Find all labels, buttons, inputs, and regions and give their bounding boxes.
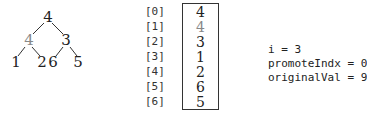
variable-i: i = 3 — [268, 43, 301, 56]
heap-tree: 4431265 — [0, 0, 110, 80]
index-label: [5] — [145, 80, 165, 93]
index-label: [0] — [145, 5, 165, 18]
tree-node: 4 — [43, 8, 53, 26]
tree-node: 3 — [61, 31, 71, 49]
array-cell: 6 — [182, 79, 219, 95]
index-label: [4] — [145, 65, 165, 78]
array-cell: 3 — [182, 34, 219, 50]
tree-node: 1 — [11, 53, 21, 71]
array-cell: 1 — [182, 49, 219, 65]
index-label: [3] — [145, 50, 165, 63]
array-cell: 5 — [182, 94, 219, 110]
variable-original-val: originalVal = 9 — [268, 71, 367, 84]
array-cell: 4 — [182, 4, 219, 20]
tree-node: 2 — [37, 53, 47, 71]
index-label: [1] — [145, 20, 165, 33]
index-label: [2] — [145, 35, 165, 48]
array-cell: 2 — [182, 64, 219, 80]
array-cell: 4 — [182, 19, 219, 35]
tree-node: 6 — [48, 53, 58, 71]
index-label: [6] — [145, 95, 165, 108]
tree-node: 4 — [24, 31, 34, 49]
variable-promote-indx: promoteIndx = 0 — [268, 57, 367, 70]
tree-node: 5 — [73, 53, 83, 71]
